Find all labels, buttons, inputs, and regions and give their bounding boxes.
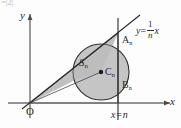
- origin-label: O: [26, 106, 34, 117]
- point-label-a-n: An: [122, 35, 132, 46]
- point-label-b-n: Bn: [122, 80, 132, 91]
- x-axis-label: x: [170, 96, 175, 107]
- center-point-dot: [99, 70, 103, 74]
- geometry-figure: =|2|. y x O An Bn Cn Sn y=1nx x = n: [0, 0, 181, 128]
- region-label-s-n: Sn: [79, 57, 88, 70]
- vertical-line-equation-label: x = n: [111, 110, 128, 120]
- line-equation-label: y=1nx: [136, 20, 159, 40]
- cut-off-top-text: =|2|.: [1, 0, 15, 7]
- point-label-c-n: Cn: [105, 67, 115, 78]
- y-axis-label: y: [20, 10, 25, 21]
